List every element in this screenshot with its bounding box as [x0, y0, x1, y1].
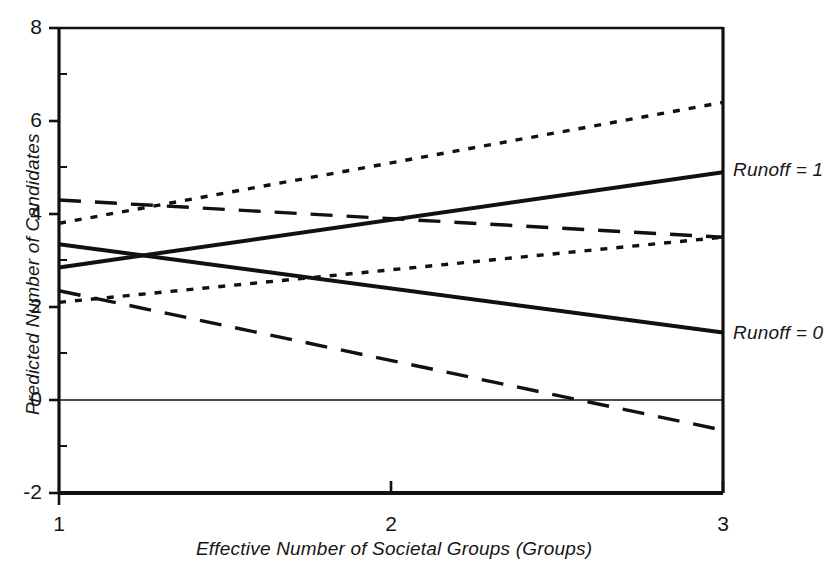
series-line-1: [59, 244, 723, 332]
y-axis-title: Predicted Number of Candidates: [22, 133, 44, 415]
axis-frame: [59, 27, 723, 493]
series-line-3: [59, 237, 723, 302]
x-tick-label-1: 1: [39, 512, 79, 536]
series-line-2: [59, 102, 723, 223]
data-series-layer: [59, 102, 723, 430]
annotation-runoff-1: Runoff = 1: [733, 159, 823, 181]
y-tick-label-minus-2: -2: [4, 480, 42, 504]
x-tick-label-2: 2: [371, 512, 411, 536]
x-axis-title: Effective Number of Societal Groups (Gro…: [196, 538, 592, 560]
y-tick-label-8: 8: [12, 15, 42, 39]
series-line-5: [59, 291, 723, 431]
annotation-runoff-0: Runoff = 0: [733, 322, 823, 344]
chart-figure: 8 6 4 2 0 -2 Predicted Number of Candida…: [0, 0, 832, 567]
chart-plot-area: [0, 0, 832, 567]
x-tick-label-3: 3: [703, 512, 743, 536]
y-tick-label-6: 6: [12, 108, 42, 132]
